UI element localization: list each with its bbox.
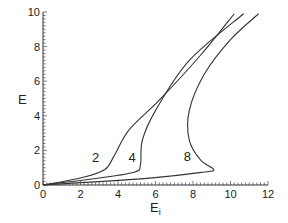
y-tick-label: 6 bbox=[34, 75, 40, 87]
y-tick-label: 8 bbox=[34, 41, 40, 53]
x-axis-label: Ei bbox=[150, 200, 161, 217]
ticks: 0246810120246810 bbox=[28, 6, 274, 200]
axes bbox=[43, 12, 268, 185]
y-tick-label: 4 bbox=[34, 110, 40, 122]
x-tick-label: 10 bbox=[224, 188, 236, 200]
x-tick-label: 4 bbox=[115, 188, 121, 200]
y-tick-label: 0 bbox=[34, 179, 40, 191]
x-tick-label: 2 bbox=[77, 188, 83, 200]
curves bbox=[43, 14, 259, 185]
curve-label: 8 bbox=[184, 149, 191, 164]
line-chart: 0246810120246810 Ei E 248 bbox=[0, 0, 288, 223]
y-tick-label: 10 bbox=[28, 6, 40, 18]
y-axis-label: E bbox=[18, 92, 27, 107]
curve-2 bbox=[43, 14, 234, 185]
x-tick-label: 6 bbox=[152, 188, 158, 200]
curve-label: 4 bbox=[128, 150, 135, 165]
curve-8 bbox=[43, 14, 259, 185]
x-tick-label: 0 bbox=[40, 188, 46, 200]
x-tick-label: 12 bbox=[262, 188, 274, 200]
x-tick-label: 8 bbox=[190, 188, 196, 200]
y-tick-label: 2 bbox=[34, 144, 40, 156]
curve-label: 2 bbox=[92, 150, 99, 165]
